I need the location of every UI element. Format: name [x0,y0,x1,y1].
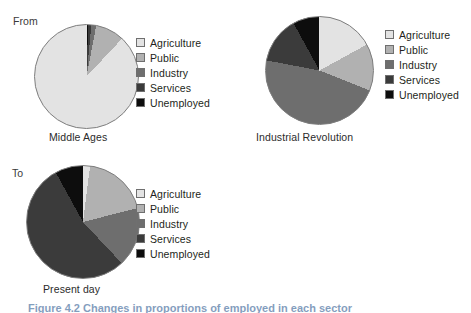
legend-item-unemployed: Unemployed [385,88,459,102]
legend-label-unemployed: Unemployed [150,98,210,109]
legend-swatch-agriculture [385,30,394,39]
legend-label-services: Services [399,75,440,86]
legend-item-public: Public [136,51,210,65]
legend-swatch-services [136,83,145,92]
legend-swatch-services [385,75,394,84]
legend-item-public: Public [136,202,210,216]
pie-chart-middle-ages [34,24,139,129]
legend-swatch-unemployed [385,90,394,99]
legend-label-agriculture: Agriculture [150,38,201,49]
legend-middle-ages: Agriculture Public Industry Services Une… [136,36,210,110]
chart-panel-middle-ages: From Middle Ages Agriculture Public Indu… [0,0,240,150]
legend-item-unemployed: Unemployed [136,247,210,261]
pie-middle-ages-slices [34,24,139,129]
pie-chart-industrial-revolution [265,16,374,125]
legend-label-industry: Industry [150,219,188,230]
chart-panel-industrial-revolution: Industrial Revolution Agriculture Public… [256,0,471,150]
legend-label-services: Services [150,234,191,245]
legend-item-services: Services [385,73,459,87]
legend-industrial-revolution: Agriculture Public Industry Services Une… [385,28,459,102]
legend-swatch-agriculture [136,38,145,47]
legend-label-unemployed: Unemployed [399,90,459,101]
pie-industrial-revolution-slices [265,16,374,125]
legend-swatch-public [136,204,145,213]
figure-canvas: From Middle Ages Agriculture Public Indu… [0,0,471,313]
legend-label-services: Services [150,83,191,94]
legend-swatch-industry [136,219,145,228]
legend-label-public: Public [150,53,179,64]
legend-label-public: Public [150,204,179,215]
legend-swatch-agriculture [136,189,145,198]
pie-chart-present-day [26,165,140,279]
legend-swatch-unemployed [136,98,145,107]
legend-present-day: Agriculture Public Industry Services Une… [136,187,210,261]
legend-item-industry: Industry [385,58,459,72]
legend-swatch-industry [385,60,394,69]
legend-item-services: Services [136,81,210,95]
legend-item-unemployed: Unemployed [136,96,210,110]
legend-swatch-unemployed [136,249,145,258]
chart-title-industrial-revolution: Industrial Revolution [256,131,353,143]
legend-item-agriculture: Agriculture [136,36,210,50]
legend-swatch-public [385,45,394,54]
legend-item-agriculture: Agriculture [385,28,459,42]
legend-label-industry: Industry [150,68,188,79]
legend-swatch-services [136,234,145,243]
legend-label-agriculture: Agriculture [150,189,201,200]
chart-panel-present-day: To Present day Agriculture Public Indust… [0,155,245,305]
legend-item-services: Services [136,232,210,246]
chart-title-middle-ages: Middle Ages [49,131,107,143]
legend-swatch-public [136,53,145,62]
flow-label-to: To [12,167,23,179]
legend-item-agriculture: Agriculture [136,187,210,201]
pie-present-day-slices [26,165,140,279]
figure-caption: Figure 4.2 Changes in proportions of emp… [28,302,458,313]
legend-item-public: Public [385,43,459,57]
legend-item-industry: Industry [136,217,210,231]
legend-swatch-industry [136,68,145,77]
legend-label-public: Public [399,45,428,56]
legend-item-industry: Industry [136,66,210,80]
legend-label-agriculture: Agriculture [399,30,450,41]
legend-label-unemployed: Unemployed [150,249,210,260]
chart-title-present-day: Present day [43,283,100,295]
legend-label-industry: Industry [399,60,437,71]
